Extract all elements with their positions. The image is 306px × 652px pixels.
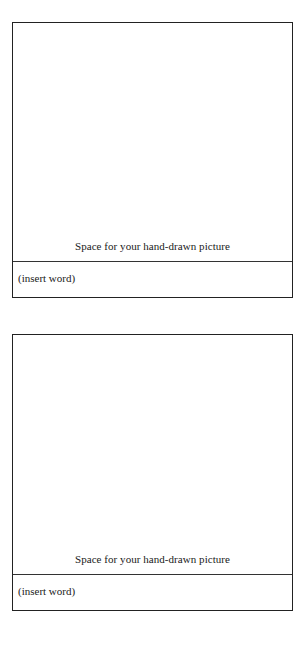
picture-drawing-area[interactable]: Space for your hand-drawn picture: [13, 23, 292, 261]
word-placeholder: (insert word): [18, 585, 75, 597]
drawing-card-1: Space for your hand-drawn picture (inser…: [12, 22, 293, 298]
drawing-card-2: Space for your hand-drawn picture (inser…: [12, 334, 293, 611]
picture-drawing-area[interactable]: Space for your hand-drawn picture: [13, 335, 292, 574]
word-placeholder: (insert word): [18, 272, 75, 284]
picture-caption: Space for your hand-drawn picture: [13, 553, 292, 565]
word-field[interactable]: (insert word): [13, 574, 292, 610]
word-field[interactable]: (insert word): [13, 261, 292, 297]
picture-caption: Space for your hand-drawn picture: [13, 240, 292, 252]
